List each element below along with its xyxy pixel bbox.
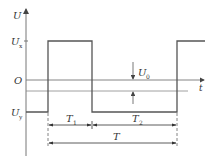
u0-indicator: U 0	[133, 62, 150, 104]
t-axis-label: t	[199, 83, 203, 93]
svg-text:1: 1	[73, 119, 77, 126]
svg-text:2: 2	[139, 119, 143, 126]
period-label: T	[113, 131, 121, 142]
t2-dimension: T 2	[93, 113, 176, 126]
y-axis-label: U	[13, 10, 22, 21]
ux-label: U x	[11, 36, 23, 49]
origin-label: O	[14, 75, 22, 86]
pulse-waveform-diagram: U U x O U y t U 0 T 1 T 2	[0, 0, 218, 166]
t1-dimension: T 1	[49, 113, 92, 129]
svg-text:0: 0	[146, 73, 150, 80]
svg-text:x: x	[19, 42, 23, 49]
period-dimension: T	[49, 131, 176, 143]
pulse-waveform	[26, 41, 205, 112]
svg-text:y: y	[18, 113, 23, 121]
uy-label: U y	[11, 107, 23, 121]
